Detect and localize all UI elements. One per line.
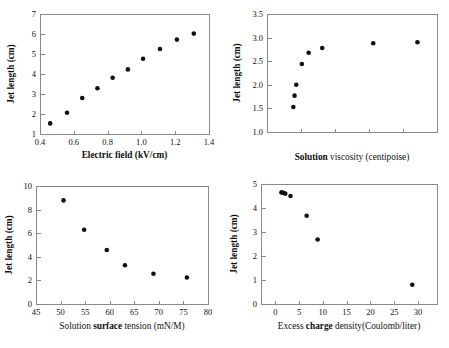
- y-axis-title: Jet length (cm): [4, 215, 15, 274]
- data-point: [80, 96, 85, 101]
- y-tick-label: 6: [32, 29, 36, 39]
- chart-excess-charge-density: 051015202530012345Excess charge density(…: [225, 174, 449, 348]
- data-point: [95, 86, 100, 91]
- chart-panel-electric-field: 0.40.60.81.01.21.41234567Electric field …: [0, 0, 224, 174]
- x-axis-title: Solution viscosity (centipoise): [295, 152, 410, 163]
- data-point: [315, 237, 320, 242]
- y-tick-label: 1: [253, 275, 257, 285]
- x-tick-label: 0: [273, 307, 277, 317]
- y-tick-label: 8: [28, 205, 32, 215]
- x-tick-label: 30: [414, 307, 423, 317]
- y-tick-label: 3: [32, 89, 36, 99]
- data-point: [320, 46, 325, 51]
- chart-panel-solution-viscosity: 1.01.52.02.53.03.5Solution viscosity (ce…: [225, 0, 449, 174]
- chart-panel-solution-surface-tension: 45505560657075800246810Solution surface …: [0, 174, 224, 348]
- y-tick-label: 0: [253, 299, 257, 309]
- x-tick-label: 0.8: [102, 137, 113, 147]
- data-point: [141, 57, 146, 62]
- data-point: [110, 76, 115, 81]
- chart-panel-excess-charge-density: 051015202530012345Excess charge density(…: [225, 174, 449, 348]
- y-tick-label: 2.0: [252, 80, 263, 90]
- y-axis-title: Jet length (cm): [229, 214, 240, 273]
- data-point: [151, 271, 156, 276]
- data-point: [126, 67, 131, 72]
- x-tick-label: 25: [390, 307, 399, 317]
- x-tick-label: 60: [105, 307, 114, 317]
- y-tick-label: 0: [28, 299, 32, 309]
- x-tick-label: 20: [366, 307, 375, 317]
- chart-electric-field: 0.40.60.81.01.21.41234567Electric field …: [0, 0, 224, 174]
- y-tick-label: 1.5: [252, 103, 263, 113]
- data-point: [82, 227, 87, 232]
- data-point: [61, 198, 66, 203]
- data-point: [123, 263, 128, 268]
- y-tick-label: 2.5: [252, 56, 263, 66]
- data-point: [283, 191, 288, 196]
- x-tick-label: 5: [297, 307, 301, 317]
- y-tick-label: 2: [28, 275, 32, 285]
- y-tick-label: 4: [32, 69, 37, 79]
- x-tick-label: 70: [155, 307, 164, 317]
- x-tick-label: 55: [81, 307, 90, 317]
- chart-solution-viscosity: 1.01.52.02.53.03.5Solution viscosity (ce…: [225, 0, 449, 174]
- x-axis-title: Solution surface tension (mN/M): [59, 321, 184, 332]
- data-point: [410, 283, 415, 288]
- plot-frame: [37, 187, 209, 305]
- data-point: [304, 213, 309, 218]
- x-tick-label: 45: [32, 307, 41, 317]
- y-tick-label: 6: [28, 228, 32, 238]
- x-tick-label: 1.2: [170, 137, 181, 147]
- x-tick-label: 65: [130, 307, 139, 317]
- y-tick-label: 7: [32, 9, 36, 19]
- chart-solution-surface-tension: 45505560657075800246810Solution surface …: [0, 174, 224, 348]
- y-tick-label: 3.5: [252, 9, 263, 19]
- y-tick-label: 5: [32, 49, 36, 59]
- x-axis-title: Excess charge density(Coulomb/liter): [278, 321, 421, 332]
- x-tick-label: 50: [56, 307, 65, 317]
- data-point: [291, 105, 296, 110]
- x-axis-title: Electric field (kV/cm): [82, 150, 168, 161]
- y-tick-label: 4: [253, 203, 258, 213]
- y-tick-label: 1: [32, 129, 36, 139]
- data-point: [288, 194, 293, 199]
- y-tick-label: 2: [32, 109, 36, 119]
- data-point: [294, 83, 299, 88]
- data-point: [104, 248, 109, 253]
- data-point: [292, 93, 297, 98]
- data-point: [191, 31, 196, 36]
- x-tick-label: 1.4: [204, 137, 215, 147]
- data-point: [415, 40, 420, 45]
- y-axis-title: Jet length (cm): [232, 43, 243, 102]
- data-point: [65, 111, 70, 116]
- x-tick-label: 0.4: [35, 137, 46, 147]
- data-point: [371, 41, 376, 46]
- plot-frame: [41, 15, 210, 135]
- y-tick-label: 4: [28, 252, 33, 262]
- figure-grid: 0.40.60.81.01.21.41234567Electric field …: [0, 0, 449, 348]
- y-tick-label: 1.0: [252, 127, 263, 137]
- data-point: [300, 62, 305, 67]
- x-tick-label: 75: [179, 307, 188, 317]
- y-axis-title: Jet length (cm): [6, 44, 17, 103]
- data-point: [185, 275, 190, 280]
- data-point: [175, 37, 180, 42]
- data-point: [158, 47, 163, 52]
- x-tick-label: 1.0: [136, 137, 147, 147]
- x-tick-label: 15: [342, 307, 351, 317]
- y-tick-label: 3: [253, 227, 257, 237]
- y-tick-label: 10: [24, 181, 33, 191]
- y-tick-label: 2: [253, 251, 257, 261]
- plot-frame: [268, 15, 438, 133]
- data-point: [48, 121, 53, 126]
- data-point: [306, 50, 311, 55]
- x-tick-label: 10: [319, 307, 328, 317]
- y-tick-label: 5: [253, 179, 257, 189]
- x-tick-label: 80: [204, 307, 213, 317]
- y-tick-label: 3.0: [252, 33, 263, 43]
- x-tick-label: 0.6: [68, 137, 79, 147]
